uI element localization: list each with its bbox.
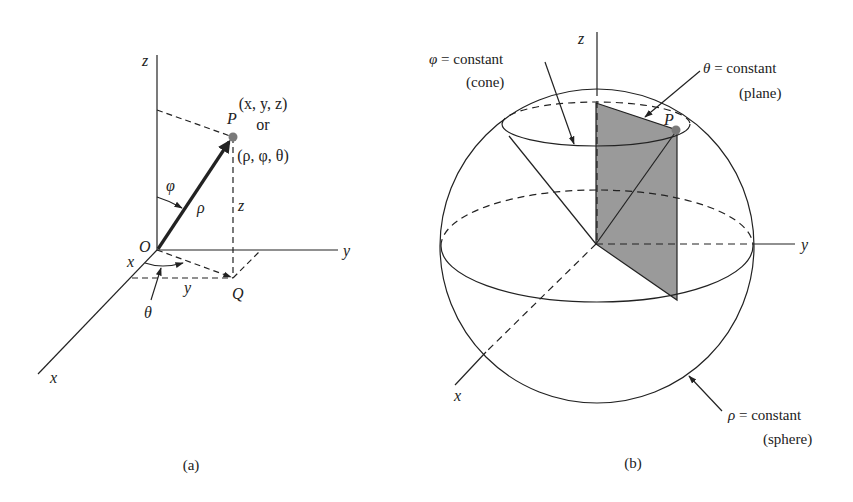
z-length-label: z [237,197,245,214]
sphere-label-text: = constant [735,407,802,423]
figure-a-labels: z y x O P Q (x, y, z) or (ρ, φ, θ) φ ρ z… [49,52,351,474]
point-p-b-label: P [663,111,674,128]
x-length-label: x [126,253,134,270]
x-axis [38,250,157,374]
spherical-coords-label: (ρ, φ, θ) [237,147,289,165]
or-label: or [256,116,270,133]
point-q-label: Q [232,285,244,302]
theta-plane [596,103,677,300]
rho-vector [158,142,229,249]
origin-label: O [139,238,151,255]
theta-arc [145,263,183,266]
y-axis-label: y [341,242,351,260]
q-to-y-dash [233,250,261,278]
phi-arc [157,197,182,208]
sphere-label-symbol: ρ [727,407,735,423]
o-to-q-dash [157,250,231,277]
x-axis-b-inside [486,244,596,352]
figure-a [38,55,338,374]
x-axis-b-label: x [453,387,461,404]
plane-label-text: = constant [710,60,777,76]
plane-label: θ = constant [703,60,777,76]
sphere-sublabel: (sphere) [763,431,812,448]
y-length-label: y [182,279,192,297]
equator-front [441,246,753,302]
p-to-z-dash [157,110,233,137]
sphere-pointer [689,376,722,411]
sphere-label: ρ = constant [727,407,802,423]
cartesian-coords-label: (x, y, z) [239,95,288,113]
point-p-label: P [226,110,237,127]
x-axis-b-outside [455,352,486,385]
caption-b: (b) [624,455,642,472]
caption-a: (a) [183,457,200,474]
cone-sublabel: (cone) [466,74,504,91]
z-axis-b-label: z [577,30,585,47]
cone-label-text: = constant [437,51,504,67]
cone-label-symbol: φ [429,51,437,67]
x-axis-label: x [49,369,57,386]
theta-label: θ [144,304,152,321]
spherical-coordinates-figure: z y x O P Q (x, y, z) or (ρ, φ, θ) φ ρ z… [0,0,853,502]
phi-label: φ [166,177,175,195]
y-axis-b-label: y [799,236,809,254]
z-axis-label: z [141,52,149,69]
cone-label: φ = constant [429,51,504,67]
theta-pointer [151,268,161,300]
plane-sublabel: (plane) [739,85,781,102]
point-p [229,133,238,142]
rho-label: ρ [196,199,205,217]
